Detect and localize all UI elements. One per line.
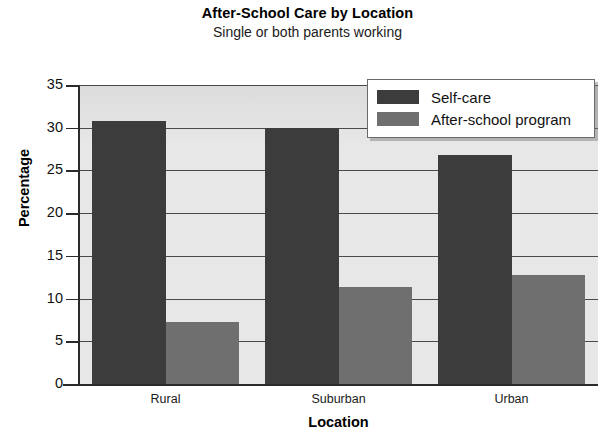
chart-legend: Self-careAfter-school program	[367, 79, 595, 138]
x-axis-tick-label: Rural	[79, 392, 252, 406]
bar	[438, 155, 512, 384]
x-axis-tick-label: Urban	[425, 392, 598, 406]
y-axis-label: Percentage	[16, 108, 32, 268]
legend-item: Self-care	[377, 86, 586, 108]
bar	[166, 322, 240, 384]
bar	[265, 128, 339, 384]
legend-swatch	[377, 112, 419, 126]
y-axis-tick	[66, 384, 79, 386]
x-axis-tick-label: Suburban	[252, 392, 425, 406]
y-axis-tick	[66, 85, 79, 87]
x-axis-line	[63, 384, 598, 386]
legend-item: After-school program	[377, 108, 586, 130]
y-axis-tick	[66, 128, 79, 130]
chart-subtitle: Single or both parents working	[0, 22, 615, 42]
y-axis-line	[78, 85, 80, 385]
bar	[512, 275, 586, 384]
y-axis-tick	[66, 213, 79, 215]
legend-rows: Self-careAfter-school program	[377, 86, 586, 130]
y-axis-tick-label: 35	[13, 77, 63, 92]
y-axis-tick	[66, 170, 79, 172]
y-axis-tick-label: 10	[13, 291, 63, 306]
x-axis-label: Location	[79, 414, 598, 429]
legend-label: After-school program	[431, 112, 571, 127]
y-axis-tick	[66, 341, 79, 343]
bar	[92, 121, 166, 384]
y-axis-tick	[66, 256, 79, 258]
bar	[339, 287, 413, 384]
title-block: After-School Care by Location Single or …	[0, 4, 615, 42]
y-axis-tick-label: 5	[13, 333, 63, 348]
chart-title: After-School Care by Location	[0, 4, 615, 22]
bar-chart-figure: After-School Care by Location Single or …	[0, 0, 615, 429]
y-axis-tick	[66, 299, 79, 301]
y-axis-tick-label: 0	[13, 376, 63, 391]
legend-swatch	[377, 90, 419, 104]
legend-label: Self-care	[431, 90, 491, 105]
